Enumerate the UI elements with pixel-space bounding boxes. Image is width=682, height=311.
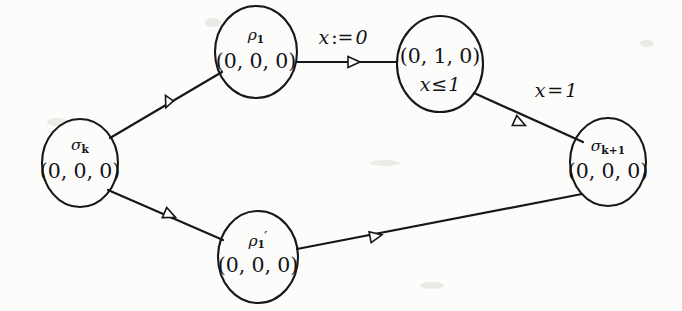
node-vector-region-middle: (0, 1, 0): [400, 46, 480, 67]
node-label-rho-1-prime: ρ1′: [248, 230, 267, 250]
node-vector-rho-1-prime: (0, 0, 0): [218, 255, 298, 276]
edge-sigmak-to-rho1prime-group: [108, 190, 223, 240]
node-vector-rho-1: (0, 0, 0): [216, 51, 296, 72]
edge-rho1-to-region-group: [297, 57, 397, 68]
node-label-sigma-k: σk: [71, 137, 89, 154]
diagram-canvas: σk (0, 0, 0) ρ1 (0, 0, 0) (0, 1, 0) x≤1 …: [0, 0, 682, 311]
edge-rho1prime-to-sigmak1-group: [297, 194, 582, 249]
edge-label-reset: x:=0: [318, 28, 367, 48]
node-vector-sigma-k: (0, 0, 0): [40, 161, 120, 182]
node-vector-sigma-k-plus-1: (0, 0, 0): [568, 161, 648, 182]
arrowhead-icon: [348, 57, 360, 68]
arrowhead-icon: [160, 93, 174, 108]
node-guard-region-middle: x≤1: [420, 75, 461, 95]
edge-label-guard: x=1: [535, 81, 578, 101]
edge-sigmak-to-rho1-group: [110, 72, 222, 138]
edge-rho1prime-to-sigmak1: [297, 194, 582, 249]
arrowhead-icon: [369, 229, 383, 242]
node-label-rho-1: ρ1: [248, 27, 265, 44]
node-label-sigma-k-plus-1: σk+1: [591, 138, 626, 155]
arrowhead-icon: [512, 116, 527, 131]
